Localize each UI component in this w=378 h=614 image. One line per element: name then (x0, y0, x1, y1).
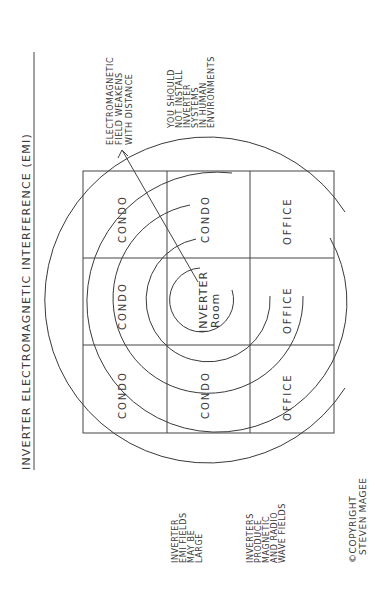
arrow-note: ELECTROMAGNETIC FIELD WEAKENS WITH DISTA… (106, 57, 134, 145)
diagram-title: INVERTER ELECTROMAGNETIC INTERFERENCE (E… (20, 133, 33, 470)
cell-label-top-right: OFFICE (282, 197, 293, 245)
emi-note: INVERTER EMI FIELDS MAY BE LARGE (171, 512, 204, 563)
arrow-head-icon (118, 150, 128, 158)
copyright-line-1: ©COPYRIGHT (348, 496, 358, 563)
warning-note: YOU SHOULD NOT INSTALL INVERTER SYSTEMS … (167, 56, 216, 129)
title-group: INVERTER ELECTROMAGNETIC INTERFERENCE (E… (20, 52, 34, 470)
copyright-note: ©COPYRIGHT STEVEN MAGEE (348, 477, 368, 563)
arrow-shaft (122, 150, 198, 282)
inverter-room-sublabel: Room (209, 293, 222, 328)
cell-label-mid-right: OFFICE (282, 286, 293, 334)
produce-note: INVERTERS PRODUCE MAGNETIC AND RADIO WAV… (246, 503, 287, 563)
emi-diagram: INVERTER ELECTROMAGNETIC INTERFERENCE (E… (0, 0, 378, 614)
arrow-note-line-2: FIELD WEAKENS (115, 72, 124, 145)
arrow-note-line-1: ELECTROMAGNETIC (106, 57, 115, 145)
distance-arrow (118, 150, 198, 282)
arrow-note-line-3: WITH DISTANCE (125, 74, 134, 145)
cell-label-mid-left: CONDO (117, 282, 128, 330)
field-ring-5 (45, 137, 345, 463)
cell-label-bottom-right: OFFICE (282, 373, 293, 421)
field-rings (45, 137, 347, 463)
cell-label-bottom-middle: CONDO (200, 371, 211, 419)
produce-note-line-5: WAVE FIELDS (278, 503, 287, 563)
cell-label-top-middle: CONDO (200, 195, 211, 243)
cell-label-top-left: CONDO (117, 195, 128, 243)
emi-note-line-4: LARGE (195, 533, 204, 563)
cell-label-bottom-left: CONDO (117, 371, 128, 419)
warning-note-line-6: ENVIRONMENTS (207, 56, 216, 128)
copyright-line-2: STEVEN MAGEE (358, 477, 368, 555)
